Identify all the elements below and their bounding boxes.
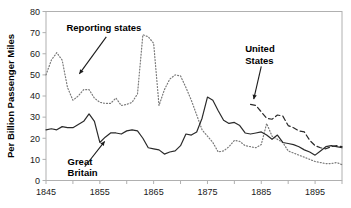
- y-tick-label: 0: [35, 176, 40, 186]
- united-states-arrow-head: [253, 95, 257, 100]
- x-tick-label: 1855: [90, 187, 110, 197]
- great-britain-arrow: [85, 141, 105, 166]
- reporting-states-arrow: [79, 37, 106, 74]
- series-line-united-states: [251, 104, 342, 148]
- y-tick-label: 20: [30, 134, 40, 144]
- reporting-states-label: Reporting states: [66, 22, 141, 33]
- reporting-states-arrow-head: [79, 69, 83, 74]
- series-line-reporting-states: [46, 35, 342, 165]
- series-line-great-britain: [46, 97, 342, 155]
- x-tick-label: 1875: [197, 187, 217, 197]
- x-tick-label: 1845: [36, 187, 56, 197]
- y-tick-label: 40: [30, 91, 40, 101]
- line-chart: 0102030405060708018451855186518751885189…: [0, 0, 351, 208]
- chart-container: 0102030405060708018451855186518751885189…: [0, 0, 351, 208]
- x-tick-label: 1895: [305, 187, 325, 197]
- y-axis-label: Per Billion Passenger Miles: [5, 34, 16, 158]
- x-tick-label: 1865: [144, 187, 164, 197]
- united-states-arrow: [254, 66, 262, 99]
- y-tick-label: 80: [30, 7, 40, 17]
- y-tick-label: 60: [30, 49, 40, 59]
- united-states-label-line2: States: [245, 55, 274, 66]
- y-tick-label: 50: [30, 70, 40, 80]
- y-tick-label: 10: [30, 155, 40, 165]
- great-britain-label-line2: Britain: [68, 167, 98, 178]
- y-tick-label: 70: [30, 28, 40, 38]
- united-states-label-line1: United: [245, 43, 275, 54]
- y-tick-label: 30: [30, 112, 40, 122]
- x-tick-label: 1885: [251, 187, 271, 197]
